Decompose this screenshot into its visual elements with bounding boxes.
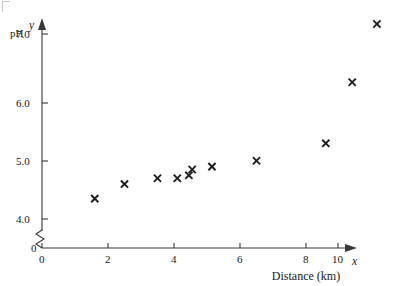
y-axis-arrow-icon [38, 18, 46, 30]
x-tick-label-6: 6 [237, 253, 243, 265]
y-axis-break-icon [36, 230, 44, 248]
x-axis-title: Distance (km) [272, 269, 340, 283]
data-point-layer [91, 20, 380, 202]
x-tick-label-8: 8 [303, 253, 309, 265]
data-point-marker [174, 175, 181, 182]
x-tick-label-4: 4 [171, 253, 177, 265]
data-point-marker [91, 195, 98, 202]
data-point-marker [121, 180, 128, 187]
x-tick-label-10: 10 [332, 253, 344, 265]
x-axis-arrow-icon [345, 244, 357, 252]
data-point-marker [373, 20, 380, 27]
y-tick-label-4: 4.0 [16, 213, 30, 225]
y-origin-label: 0 [31, 242, 37, 254]
data-point-marker [253, 157, 260, 164]
data-point-marker [208, 163, 215, 170]
x-axis-symbol-label: x [351, 255, 358, 267]
data-point-marker [154, 175, 161, 182]
y-tick-label-5: 5.0 [16, 155, 30, 167]
x-tick-label-0: 0 [39, 253, 45, 265]
y-tick-label-6: 6.0 [16, 97, 30, 109]
x-tick-label-2: 2 [105, 253, 111, 265]
y-tick-label-7: 7.0 [16, 28, 30, 40]
scatter-plot-screenshot: pH y 7.0 6.0 5.0 4.0 0 0 2 4 6 8 [0, 0, 396, 286]
scatter-plot-figure: pH y 7.0 6.0 5.0 4.0 0 0 2 4 6 8 [0, 0, 396, 286]
data-point-marker [349, 79, 356, 86]
data-point-marker [322, 140, 329, 147]
